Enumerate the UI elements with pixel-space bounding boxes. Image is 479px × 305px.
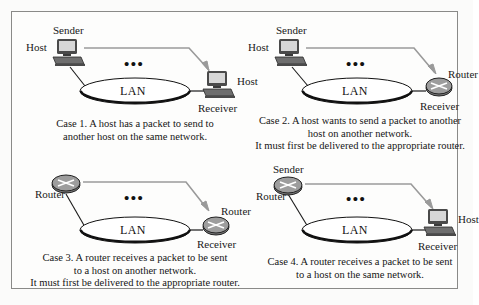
sender-label: Sender <box>276 25 307 36</box>
source-host-label: Host <box>248 42 269 53</box>
case-2-caption: Case 2. A host wants to send a packet to… <box>248 115 472 153</box>
dest-router-label: Router <box>221 206 251 217</box>
figure-frame: Sender Host ••• LAN Host Receiver Case 1… <box>11 11 458 289</box>
receiver-label: Receiver <box>197 239 236 250</box>
case-3-panel: Router ••• LAN Router Receiver Case 3. A… <box>23 164 247 304</box>
case-4-panel: Sender Router ••• LAN Host Receiver Case… <box>248 164 472 304</box>
host-icon <box>53 39 85 66</box>
caption-line: Case 2. A host wants to send a packet to… <box>248 115 472 128</box>
lan-label: LAN <box>342 223 368 238</box>
caption-line: to a host on the same network. <box>248 269 472 282</box>
lan-label: LAN <box>120 223 146 238</box>
ellipsis-dots: ••• <box>124 190 144 205</box>
host-icon <box>275 39 307 66</box>
dest-host-label: Host <box>458 214 479 225</box>
packet-arrow-icon <box>305 184 433 209</box>
packet-arrow-icon <box>84 48 209 71</box>
case-1-scene: Sender Host ••• LAN Host Receiver <box>23 23 247 115</box>
packet-arrow-icon <box>83 182 209 211</box>
lan-label: LAN <box>342 84 368 99</box>
case-4-caption: Case 4. A router receives a packet to be… <box>248 256 472 281</box>
ellipsis-dots: ••• <box>124 56 144 71</box>
caption-line: Case 1. A host has a packet to send to <box>23 118 247 131</box>
caption-line: It must first be delivered to the approp… <box>248 140 472 153</box>
source-router-label: Router <box>256 191 286 202</box>
ellipsis-dots: ••• <box>346 191 366 206</box>
ellipsis-dots: ••• <box>346 56 366 71</box>
case-3-caption: Case 3. A router receives a packet to be… <box>23 252 247 290</box>
packet-arrow-icon <box>306 48 436 74</box>
lan-label: LAN <box>120 84 146 99</box>
caption-line: another host on the same network. <box>23 131 247 144</box>
caption-line: It must first be delivered to the approp… <box>23 277 247 290</box>
router-icon <box>426 78 452 96</box>
caption-line: Case 4. A router receives a packet to be… <box>248 256 472 269</box>
caption-line: to a host on another network. <box>23 265 247 278</box>
case-3-scene: Router ••• LAN Router Receiver <box>23 164 247 256</box>
case-1-panel: Sender Host ••• LAN Host Receiver Case 1… <box>23 23 247 163</box>
source-host-label: Host <box>26 42 47 53</box>
source-router-label: Router <box>35 189 65 200</box>
host-icon <box>424 209 456 236</box>
caption-line: host on another network. <box>248 128 472 141</box>
caption-line: Case 3. A router receives a packet to be… <box>23 252 247 265</box>
case-2-scene: Sender Host ••• LAN Router Receiver <box>248 23 472 115</box>
receiver-label: Receiver <box>420 101 459 112</box>
receiver-label: Receiver <box>418 241 457 252</box>
dest-router-label: Router <box>448 69 478 80</box>
case-2-panel: Sender Host ••• LAN Router Receiver Case… <box>248 23 472 163</box>
case-4-scene: Sender Router ••• LAN Host Receiver <box>248 164 472 256</box>
sender-label: Sender <box>53 25 84 36</box>
sender-label: Sender <box>273 164 304 175</box>
host-icon <box>203 71 235 98</box>
case-1-caption: Case 1. A host has a packet to send to a… <box>23 118 247 143</box>
router-icon <box>203 217 229 235</box>
receiver-label: Receiver <box>198 103 237 114</box>
